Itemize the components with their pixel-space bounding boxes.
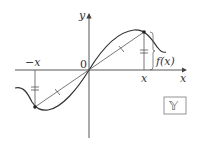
y-axis-label: y (78, 9, 86, 22)
point-positive (142, 30, 146, 34)
odd-function-diagram: y x 0 x −x f(x) 𝕐 (0, 0, 201, 144)
fx-label: f(x) (155, 55, 175, 68)
secant-line (35, 32, 144, 107)
x-axis-label: x (180, 72, 187, 85)
negative-x-label: −x (25, 56, 41, 69)
positive-x-label: x (141, 72, 148, 85)
point-negative (33, 105, 37, 109)
badge-label: 𝕐 (168, 98, 179, 113)
origin-label: 0 (80, 58, 87, 71)
